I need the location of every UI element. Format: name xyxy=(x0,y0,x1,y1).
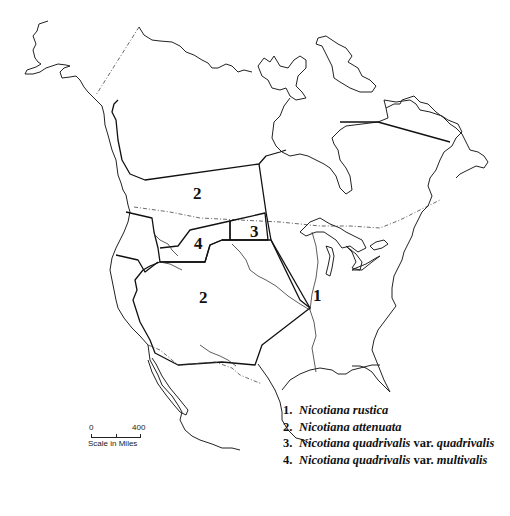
legend-number: 2. xyxy=(283,419,299,436)
hudson-bay-coast xyxy=(272,98,462,194)
scale-caption: Scale in Miles xyxy=(88,439,137,448)
legend-number: 4. xyxy=(283,452,299,469)
map-legend: 1.Nicotiana rustica 2.Nicotiana attenuat… xyxy=(283,402,494,468)
legend-item-4: 4.Nicotiana quadrivalis var. multivalis xyxy=(283,452,494,469)
pacific-coastline xyxy=(110,195,240,450)
legend-species-name: Nicotiana rustica xyxy=(299,403,388,417)
pacific-northwest-boundaries xyxy=(116,212,160,272)
alaska-coastline xyxy=(25,21,126,195)
legend-item-3: 3.Nicotiana quadrivalis var. quadrivalis xyxy=(283,435,494,452)
scale-min-label: 0 xyxy=(89,423,93,432)
legend-variety-name: quadrivalis xyxy=(437,436,495,450)
legend-var-label: var. xyxy=(410,453,436,467)
legend-number: 3. xyxy=(283,435,299,452)
scale-mid-tick xyxy=(116,434,117,437)
region-label-2-north: 2 xyxy=(193,184,202,204)
legend-variety-name: multivalis xyxy=(437,453,488,467)
arctic-coast-canada xyxy=(139,27,252,72)
labrador-coast xyxy=(386,96,488,178)
snake-river xyxy=(160,262,182,270)
scale-max-label: 400 xyxy=(132,423,145,432)
legend-species-name: Nicotiana attenuata xyxy=(299,420,401,434)
canada-us-border xyxy=(134,200,440,228)
atlantic-coastline xyxy=(372,160,440,392)
region-label-4: 4 xyxy=(194,234,203,254)
legend-species-name: Nicotiana quadrivalis xyxy=(299,453,410,467)
legend-number: 1. xyxy=(283,402,299,419)
legend-item-2: 2.Nicotiana attenuata xyxy=(283,419,494,436)
region-2-east-boundary xyxy=(259,164,271,240)
great-lakes xyxy=(300,218,388,276)
legend-species-name: Nicotiana quadrivalis xyxy=(299,436,410,450)
region-label-2-southwest: 2 xyxy=(199,288,208,308)
arctic-islands xyxy=(258,36,376,100)
legend-var-label: var. xyxy=(410,436,436,450)
scale-bar-line xyxy=(91,434,141,438)
legend-item-1: 1.Nicotiana rustica xyxy=(283,402,494,419)
alaska-canada-border xyxy=(96,27,139,95)
florida-gulf-coast xyxy=(352,366,390,392)
region-3-boundary xyxy=(230,213,268,240)
region-label-3: 3 xyxy=(250,222,259,242)
region-label-1: 1 xyxy=(313,286,322,306)
missouri-river xyxy=(232,244,310,310)
